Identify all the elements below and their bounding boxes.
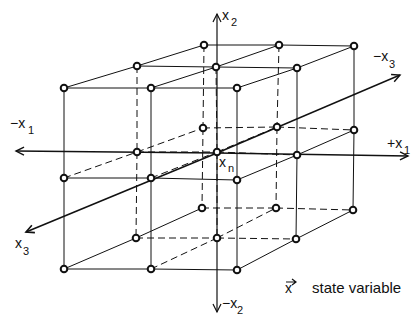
lattice-node xyxy=(148,266,155,273)
lattice-edge-x1 xyxy=(137,66,216,67)
legend: x state variable xyxy=(285,279,401,296)
svg-text:x: x xyxy=(15,235,22,251)
svg-text:−x: −x xyxy=(373,48,388,64)
lattice-edge-x1 xyxy=(277,127,354,130)
lattice-node xyxy=(134,63,141,70)
axis-label-x1-positive: +x 1 xyxy=(387,135,410,156)
lattice-node xyxy=(61,266,68,273)
svg-text:1: 1 xyxy=(28,124,34,136)
lattice-edge-x3 xyxy=(64,238,136,269)
svg-text:2: 2 xyxy=(231,16,237,28)
lattice-node xyxy=(199,205,206,212)
lattice-edge-x2 xyxy=(296,155,297,239)
lattice-edge-x3 xyxy=(217,208,276,238)
axis-label-x2-positive: x 2 xyxy=(222,7,237,28)
lattice-edge-x2 xyxy=(136,152,137,238)
axis-label-x1-negative: −x 1 xyxy=(10,115,34,136)
lattice-node xyxy=(294,152,301,159)
lattice-edge-x2 xyxy=(276,127,277,208)
lattice-node xyxy=(234,85,241,92)
lattice-edge-x3 xyxy=(151,238,217,269)
lattice-edge-x3 xyxy=(151,67,216,88)
lattice-edge-x1 xyxy=(276,208,353,210)
svg-text:2: 2 xyxy=(237,304,243,316)
lattice-edge-x1 xyxy=(151,269,237,270)
lattice-node xyxy=(351,43,358,50)
svg-text:x: x xyxy=(219,154,226,170)
svg-text:3: 3 xyxy=(23,245,29,257)
lattice-node xyxy=(133,235,140,242)
lattice-node xyxy=(294,65,301,72)
svg-text:1: 1 xyxy=(404,144,410,156)
lattice-edge-x3 xyxy=(297,130,354,155)
svg-text:n: n xyxy=(228,162,234,174)
lattice-edge-x3 xyxy=(297,46,354,68)
lattice-node xyxy=(201,42,208,49)
lattice-edge-x3 xyxy=(237,68,297,88)
lattice-node xyxy=(61,85,68,92)
lattice-node xyxy=(274,124,281,131)
lattice-node xyxy=(61,175,68,182)
lattice-node xyxy=(350,207,357,214)
lattice-edge-x3 xyxy=(64,66,137,88)
lattice-edge-x3 xyxy=(137,128,203,152)
state-space-lattice-diagram: x 2 −x 2 −x 1 +x 1 −x 3 x 3 x n x state … xyxy=(0,0,420,324)
lattice-node xyxy=(293,236,300,243)
lattice-edge-x3 xyxy=(151,152,217,178)
lattice-node xyxy=(134,149,141,156)
axis-x3-negative xyxy=(217,75,400,153)
lattice-edge-x1 xyxy=(217,238,296,239)
lattice-edge-x2 xyxy=(277,45,279,127)
center-node-label-xn: x n xyxy=(219,154,234,174)
lattice-edge-x2 xyxy=(202,128,203,208)
lattice-edge-x3 xyxy=(136,208,202,238)
svg-text:x: x xyxy=(222,7,229,23)
lattice-edge-x2 xyxy=(353,130,354,210)
lattice-edge-x3 xyxy=(296,210,353,239)
svg-text:−x: −x xyxy=(10,115,25,131)
lattice-edge-x3 xyxy=(237,239,296,270)
lattice-edge-x3 xyxy=(237,155,297,180)
axis-x1-negative xyxy=(16,151,217,153)
lattice-edge-x1 xyxy=(151,178,237,180)
axis-x1-positive xyxy=(217,153,408,156)
lattice-edge-x1 xyxy=(203,127,277,128)
lattice-node xyxy=(351,127,358,134)
lattice-node xyxy=(200,125,207,132)
axis-x3-positive xyxy=(26,153,217,232)
lattice-node xyxy=(273,205,280,212)
lattice-node xyxy=(234,267,241,274)
lattice-node xyxy=(214,235,221,242)
lattice-node xyxy=(276,42,283,49)
lattice-edge-x3 xyxy=(216,45,279,67)
lattice-edge-x3 xyxy=(137,45,204,66)
lattice-edge-x1 xyxy=(279,45,354,46)
lattice-node xyxy=(148,175,155,182)
axis-label-x2-negative: −x 2 xyxy=(222,295,243,316)
lattice-edge-x3 xyxy=(64,152,137,178)
lattice-node xyxy=(234,177,241,184)
lattice-edge-x2 xyxy=(203,45,204,128)
axis-label-x3-negative: −x 3 xyxy=(373,48,395,70)
svg-text:−x: −x xyxy=(222,295,237,311)
lattice-node xyxy=(213,64,220,71)
svg-text:+x: +x xyxy=(387,135,402,151)
lattice-edge-x1 xyxy=(216,67,297,68)
lattice-node xyxy=(148,85,155,92)
svg-text:3: 3 xyxy=(389,58,395,70)
legend-text: state variable xyxy=(312,279,401,296)
axis-label-x3-positive: x 3 xyxy=(15,235,29,257)
